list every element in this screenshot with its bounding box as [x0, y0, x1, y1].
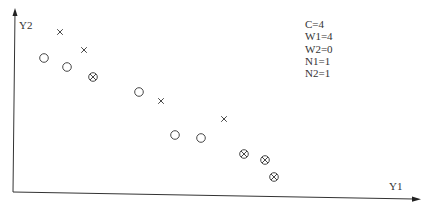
- cross-marker-icon: [81, 47, 87, 53]
- x-axis-arrow-icon: [412, 197, 421, 202]
- cross-marker-icon: [158, 98, 164, 104]
- x-axis: [13, 192, 414, 199]
- parameter-list: C=4 W1=4 W2=0 N1=1 N2=1: [305, 18, 333, 79]
- circled-cross-marker-icon: [240, 150, 249, 159]
- circle-marker-icon: [197, 134, 206, 143]
- y-axis: [13, 12, 15, 192]
- param-c: C=4: [305, 18, 333, 30]
- param-w1: W1=4: [305, 30, 333, 42]
- param-n1: N1=1: [305, 55, 333, 67]
- circled-cross-marker-icon: [261, 156, 270, 165]
- circle-marker-icon: [171, 131, 180, 140]
- circle-marker-icon: [40, 54, 49, 63]
- circled-cross-marker-icon: [270, 173, 279, 182]
- param-w2: W2=0: [305, 43, 333, 55]
- circle-marker-icon: [135, 88, 144, 97]
- x-axis-label: Y1: [389, 181, 402, 192]
- y-axis-label: Y2: [19, 20, 32, 31]
- scatter-diagram: [0, 0, 428, 210]
- cross-marker-icon: [221, 116, 227, 122]
- y-axis-arrow-icon: [13, 8, 18, 16]
- circle-marker-icon: [63, 63, 72, 72]
- cross-marker-icon: [57, 29, 63, 35]
- circled-cross-marker-icon: [89, 73, 98, 82]
- param-n2: N2=1: [305, 67, 333, 79]
- markers-group: [40, 29, 279, 181]
